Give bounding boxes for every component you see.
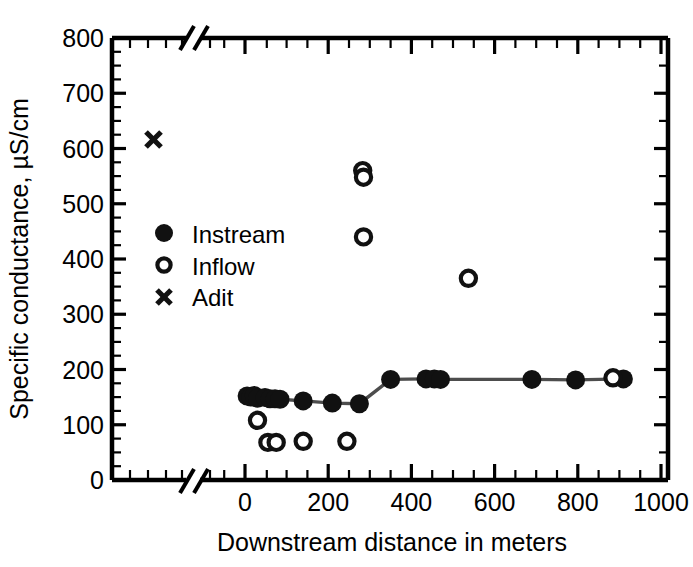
instream-points	[238, 369, 633, 413]
x-tick-label: 400	[391, 488, 433, 516]
legend-label: Adit	[192, 284, 234, 311]
data-point-adit	[146, 132, 161, 147]
data-point-instream	[350, 394, 369, 413]
data-point-inflow	[269, 435, 284, 450]
y-tick-label: 600	[62, 135, 104, 163]
y-tick-label: 400	[62, 245, 104, 273]
data-point-instream	[271, 390, 290, 409]
data-point-instream	[566, 370, 585, 389]
legend-entry-adit: Adit	[157, 284, 234, 311]
filled-circle-icon	[155, 224, 173, 242]
y-tick-label: 200	[62, 356, 104, 384]
x-tick-label: 200	[307, 488, 349, 516]
data-point-inflow	[296, 434, 311, 449]
x-tick-label: 600	[474, 488, 516, 516]
x-tick-label: 800	[557, 488, 599, 516]
y-tick-label: 300	[62, 300, 104, 328]
data-point-inflow	[356, 229, 371, 244]
data-point-inflow	[605, 370, 620, 385]
x-tick-label: 0	[238, 488, 252, 516]
data-point-inflow	[339, 434, 354, 449]
y-tick-label: 0	[90, 466, 104, 494]
top-axis-ticks	[130, 38, 661, 54]
data-point-instream	[522, 370, 541, 389]
legend-label: Instream	[192, 221, 285, 248]
legend-entry-inflow: Inflow	[157, 253, 255, 280]
data-point-inflow	[250, 413, 265, 428]
x-tick-labels: 0 200 400 600 800 1000	[238, 488, 689, 516]
legend-entry-instream: Instream	[155, 221, 285, 248]
y-axis-title: Specific conductance, µS/cm	[5, 98, 33, 420]
data-point-instream	[381, 370, 400, 389]
chart-svg: 0 100 200 300 400 500 600 700 800	[0, 0, 693, 567]
data-point-inflow	[356, 170, 371, 185]
y-tick-label: 800	[62, 24, 104, 52]
cross-icon	[157, 290, 171, 304]
y-tick-label: 100	[62, 411, 104, 439]
y-tick-label: 700	[62, 79, 104, 107]
x-axis-title: Downstream distance in meters	[217, 528, 567, 556]
data-point-instream	[323, 394, 342, 413]
data-point-instream	[431, 370, 450, 389]
data-point-inflow	[461, 271, 476, 286]
y-tick-labels: 0 100 200 300 400 500 600 700 800	[62, 24, 104, 494]
y-tick-label: 500	[62, 190, 104, 218]
legend-label: Inflow	[192, 253, 255, 280]
x-axis-ticks	[130, 464, 661, 480]
specific-conductance-chart: 0 100 200 300 400 500 600 700 800	[0, 0, 693, 567]
x-tick-label: 1000	[633, 488, 689, 516]
legend: Instream Inflow Adit	[155, 221, 285, 311]
open-circle-icon	[157, 258, 170, 271]
data-point-instream	[294, 391, 313, 410]
